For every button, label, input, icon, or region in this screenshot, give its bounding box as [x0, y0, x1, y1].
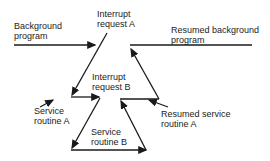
interrupt-request-a-label: Interrupt request A [97, 9, 135, 29]
label-line: routine A [34, 116, 70, 126]
label-line: request B [92, 82, 131, 92]
service-routine-a-label: Service routine A [34, 106, 70, 126]
resumed-background-label: Resumed background program [171, 25, 259, 45]
label-line: Interrupt [92, 72, 131, 82]
label-line: Resumed service [161, 109, 231, 119]
resumed-service-a-pointer [149, 100, 168, 107]
background-program-label: Background program [14, 21, 62, 41]
label-line: program [14, 31, 62, 41]
label-line: Interrupt [97, 9, 135, 19]
label-line: Service [34, 106, 70, 116]
label-line: Resumed background [171, 25, 259, 35]
service-routine-b-label: Service routine B [91, 127, 127, 147]
label-line: program [171, 35, 259, 45]
label-line: routine A [161, 119, 231, 129]
label-line: request A [97, 19, 135, 29]
resumed-service-routine-a-label: Resumed service routine A [161, 109, 231, 129]
label-line: Background [14, 21, 62, 31]
return-to-background-arrow [131, 49, 159, 99]
interrupt-request-b-label: Interrupt request B [92, 72, 131, 92]
label-line: Service [91, 127, 127, 137]
label-line: routine B [91, 137, 127, 147]
